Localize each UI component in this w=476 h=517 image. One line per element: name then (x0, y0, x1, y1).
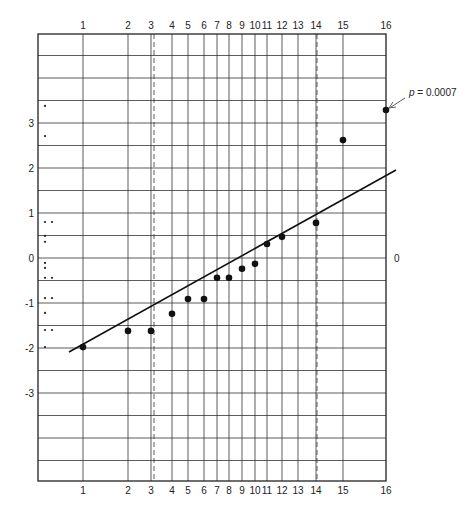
y-tick-label: -1 (25, 298, 34, 309)
x-tick-label: 9 (239, 20, 245, 31)
marginal-dot (44, 297, 46, 299)
data-point (80, 344, 87, 351)
marginal-dot (44, 277, 46, 279)
data-point (148, 328, 155, 335)
marginal-dot (51, 297, 53, 299)
x-tick-label: 8 (226, 20, 232, 31)
x-tick-label: 2 (125, 485, 131, 496)
y-tick-label: -2 (25, 343, 34, 354)
probability-plot: 12345678910111213141516 1234567891011121… (0, 0, 476, 517)
x-tick-label: 15 (337, 20, 349, 31)
marginal-dot (44, 267, 46, 269)
x-tick-label: 5 (185, 20, 191, 31)
data-point (279, 234, 286, 241)
data-point (239, 266, 246, 273)
marginal-dot (44, 312, 46, 314)
p-value-label: p = 0.0007 (408, 87, 457, 98)
marginal-dot (44, 235, 46, 237)
marginal-dot (44, 262, 46, 264)
x-tick-labels-top: 12345678910111213141516 (80, 20, 392, 31)
marginal-dot (44, 329, 46, 331)
data-point (214, 275, 221, 282)
x-tick-label: 5 (185, 485, 191, 496)
x-tick-label: 14 (310, 485, 322, 496)
vertical-gridlines (83, 34, 343, 481)
x-tick-label: 4 (169, 485, 175, 496)
y-tick-label: 3 (28, 118, 34, 129)
plot-frame (38, 34, 386, 481)
x-tick-label: 2 (125, 20, 131, 31)
x-tick-label: 9 (239, 485, 245, 496)
x-tick-label: 6 (201, 20, 207, 31)
x-tick-label: 15 (337, 485, 349, 496)
x-tick-label: 10 (249, 485, 261, 496)
x-tick-label: 3 (148, 20, 154, 31)
marginal-dot-plot (44, 105, 53, 348)
data-point (201, 296, 208, 303)
x-tick-label: 12 (276, 20, 288, 31)
x-tick-label: 13 (292, 485, 304, 496)
x-tick-label: 11 (262, 20, 273, 31)
marginal-dot (51, 277, 53, 279)
x-tick-label: 6 (201, 485, 207, 496)
data-point (383, 107, 390, 114)
x-tick-label: 4 (169, 20, 175, 31)
data-point (125, 328, 132, 335)
x-tick-label: 7 (214, 485, 220, 496)
y-tick-labels: 3210-1-2-3 (25, 118, 34, 399)
y-tick-label: 2 (28, 163, 34, 174)
data-point (185, 296, 192, 303)
marginal-dot (44, 221, 46, 223)
data-point (340, 137, 347, 144)
data-point (169, 311, 176, 318)
x-tick-label: 13 (292, 20, 304, 31)
x-tick-label: 11 (262, 485, 273, 496)
right-axis-zero-label: 0 (394, 253, 400, 264)
marginal-dot (44, 105, 46, 107)
x-tick-label: 3 (148, 485, 154, 496)
x-tick-labels-bottom: 12345678910111213141516 (80, 485, 392, 496)
arrowhead-icon (389, 102, 396, 108)
x-tick-label: 12 (276, 485, 288, 496)
x-tick-label: 8 (226, 485, 232, 496)
x-tick-label: 1 (80, 20, 86, 31)
marginal-dot (51, 221, 53, 223)
x-tick-label: 16 (380, 20, 392, 31)
marginal-dot (44, 346, 46, 348)
data-point (226, 275, 233, 282)
y-tick-label: -3 (25, 388, 34, 399)
data-point (313, 220, 320, 227)
p-value-annotation: p = 0.0007 (389, 87, 457, 108)
horizontal-gridlines (38, 56, 386, 461)
data-point (252, 261, 259, 268)
y-tick-label: 1 (28, 208, 34, 219)
data-point (264, 241, 271, 248)
marginal-dot (44, 241, 46, 243)
x-tick-label: 1 (80, 485, 86, 496)
marginal-dot (51, 329, 53, 331)
x-tick-label: 10 (249, 20, 261, 31)
x-tick-label: 16 (380, 485, 392, 496)
x-tick-label: 14 (310, 20, 322, 31)
y-tick-label: 0 (28, 253, 34, 264)
marginal-dot (44, 135, 46, 137)
fit-line (69, 170, 396, 352)
x-tick-label: 7 (214, 20, 220, 31)
